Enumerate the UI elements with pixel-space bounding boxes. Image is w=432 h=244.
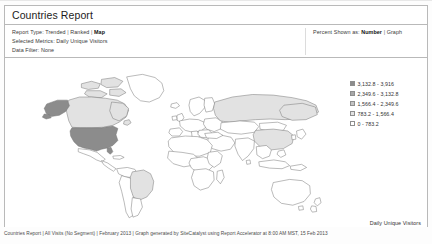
- report-meta-right-column: Percent Shown as: Number | Graph: [305, 28, 425, 55]
- region-alaska[interactable]: [44, 100, 69, 116]
- legend-item[interactable]: 783.2 - 1,566.4: [350, 109, 426, 119]
- region-madagascar[interactable]: [217, 170, 225, 184]
- report-title-bar: Countries Report: [5, 6, 427, 25]
- region-sri-lanka[interactable]: [246, 160, 250, 164]
- region-scandinavia[interactable]: [189, 97, 205, 116]
- legend-label-3: 1,566.4 - 2,349.6: [358, 101, 399, 107]
- legend-label-5: 0 - 783.2: [358, 121, 379, 127]
- region-central-america[interactable]: [102, 161, 116, 172]
- report-meta-left-column: Report Type: Trended | Ranked | Map Sele…: [12, 28, 292, 55]
- region-russia-east[interactable]: [280, 103, 318, 120]
- region-canada-arctic-3[interactable]: [85, 91, 108, 98]
- legend-swatch-1: [350, 81, 355, 86]
- report-meta-strip: Report Type: Trended | Ranked | Map Sele…: [5, 25, 427, 58]
- data-filter-label: Data Filter:: [12, 47, 39, 53]
- legend-item[interactable]: 2,349.6 - 3,132.8: [350, 89, 426, 99]
- region-iberia[interactable]: [169, 128, 183, 136]
- region-greenland[interactable]: [127, 74, 164, 102]
- report-body: 3,132.8 - 3,916 2,349.6 - 3,132.8 1,566.…: [5, 58, 427, 227]
- region-canada-east[interactable]: [110, 102, 129, 121]
- selected-metrics-value[interactable]: Daily Unique Visitors: [56, 38, 107, 44]
- world-choropleth-map[interactable]: [7, 58, 325, 220]
- report-type-label: Report Type:: [12, 29, 44, 35]
- selected-metrics-label: Selected Metrics:: [12, 38, 55, 44]
- report-type-row: Report Type: Trended | Ranked | Map: [12, 28, 292, 37]
- region-korea[interactable]: [292, 135, 296, 140]
- footer-text: Countries Report | All Visits (No Segmen…: [4, 231, 428, 236]
- region-tasmania[interactable]: [298, 206, 303, 210]
- region-iceland[interactable]: [171, 103, 180, 109]
- percent-shown-as-separator: |: [384, 29, 385, 35]
- region-canada-arctic-1[interactable]: [81, 81, 100, 89]
- legend-swatch-5: [350, 121, 355, 126]
- report-footer: Countries Report | All Visits (No Segmen…: [4, 231, 428, 236]
- region-newfoundland[interactable]: [124, 120, 132, 126]
- map-legend: 3,132.8 - 3,916 2,349.6 - 3,132.8 1,566.…: [350, 79, 426, 129]
- report-page: Countries Report Report Type: Trended | …: [0, 0, 432, 244]
- legend-item[interactable]: 1,566.4 - 2,349.6: [350, 99, 426, 109]
- report-type-option-trended[interactable]: Trended: [45, 29, 65, 35]
- region-india[interactable]: [235, 138, 255, 161]
- region-philippines[interactable]: [277, 150, 286, 158]
- report-type-option-map[interactable]: Map: [94, 29, 105, 35]
- legend-item[interactable]: 3,132.8 - 3,916: [350, 79, 426, 89]
- region-caribbean[interactable]: [113, 156, 124, 160]
- legend-label-1: 3,132.8 - 3,916: [358, 81, 394, 87]
- legend-label-4: 783.2 - 1,566.4: [358, 111, 394, 117]
- world-map-svg: [7, 58, 325, 220]
- region-indonesia[interactable]: [259, 160, 290, 169]
- region-japan[interactable]: [297, 129, 306, 139]
- region-central-asia[interactable]: [220, 121, 258, 134]
- region-argentina[interactable]: [131, 198, 142, 218]
- report-type-option-ranked[interactable]: Ranked: [70, 29, 89, 35]
- region-new-zealand[interactable]: [314, 198, 321, 206]
- region-canada-arctic-4[interactable]: [110, 89, 126, 97]
- legend-item[interactable]: 0 - 783.2: [350, 119, 426, 129]
- data-filter-row: Data Filter: None: [12, 46, 292, 55]
- region-new-guinea[interactable]: [290, 164, 306, 170]
- region-us-florida[interactable]: [107, 147, 113, 154]
- legend-label-2: 2,349.6 - 3,132.8: [358, 91, 399, 97]
- percent-shown-as-option-number[interactable]: Number: [361, 29, 382, 35]
- metric-caption: Daily Unique Visitors: [370, 220, 421, 226]
- region-new-zealand-south[interactable]: [310, 206, 316, 212]
- region-mexico[interactable]: [78, 149, 105, 162]
- region-australia[interactable]: [271, 179, 310, 205]
- data-filter-value[interactable]: None: [41, 47, 54, 53]
- page-title: Countries Report: [12, 9, 93, 21]
- percent-shown-as-label: Percent Shown as:: [313, 29, 360, 35]
- page-top-rule: [0, 0, 432, 1]
- region-southern-africa[interactable]: [191, 169, 214, 190]
- percent-shown-as-option-graph[interactable]: Graph: [387, 29, 402, 35]
- percent-shown-as-row: Percent Shown as: Number | Graph: [313, 28, 425, 37]
- region-ireland[interactable]: [172, 116, 177, 120]
- legend-swatch-2: [350, 91, 355, 96]
- report-type-separator-1: |: [67, 29, 68, 35]
- legend-swatch-4: [350, 111, 355, 116]
- region-finland[interactable]: [204, 98, 215, 112]
- report-type-separator-2: |: [91, 29, 92, 35]
- selected-metrics-row: Selected Metrics: Daily Unique Visitors: [12, 37, 292, 46]
- region-canada-arctic-2[interactable]: [101, 78, 123, 88]
- report-panel: Countries Report Report Type: Trended | …: [4, 5, 428, 227]
- legend-swatch-3: [350, 101, 355, 106]
